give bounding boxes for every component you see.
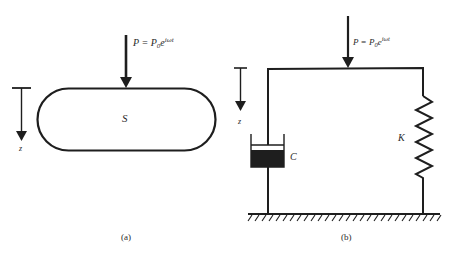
damper-label-c: C xyxy=(290,151,297,162)
caption-a: (a) xyxy=(121,232,131,242)
force-label-a: P = P0eiωt xyxy=(132,36,175,50)
ground xyxy=(248,214,441,221)
z-axis-arrow-b xyxy=(234,68,247,111)
z-axis-arrow-a xyxy=(12,88,31,141)
spring-k xyxy=(416,96,432,214)
panel-a: P = P0eiωt S z (a) xyxy=(12,35,216,242)
force-arrow-a xyxy=(120,35,132,88)
body-label-s: S xyxy=(122,112,128,124)
diagram-canvas: P = P0eiωt S z (a) P = P0eiωt C xyxy=(0,0,455,256)
caption-b: (b) xyxy=(341,232,352,242)
force-label-b: P = P0eiωt xyxy=(352,35,390,48)
z-axis-label-b: z xyxy=(237,117,242,126)
spring-label-k: K xyxy=(397,132,406,143)
panel-b: P = P0eiωt C K xyxy=(234,16,441,242)
dashpot-c xyxy=(251,134,284,214)
z-axis-label-a: z xyxy=(18,144,23,153)
